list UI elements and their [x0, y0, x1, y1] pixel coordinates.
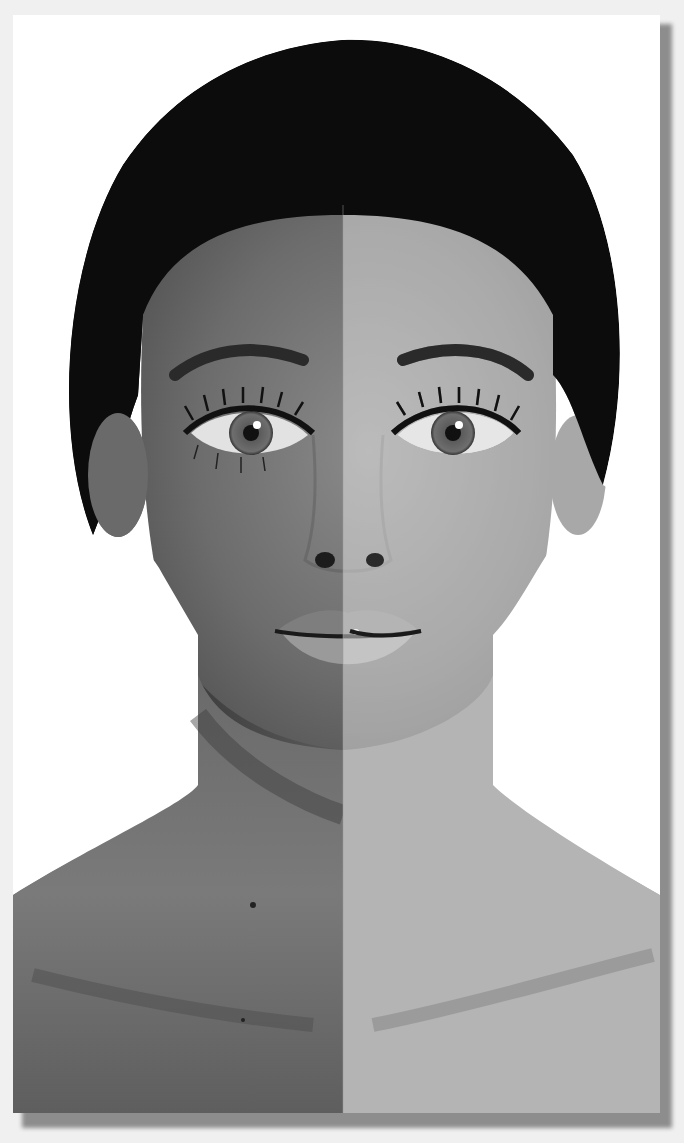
portrait-photo-print: [13, 15, 660, 1113]
portrait-image: [13, 15, 660, 1113]
photo-stage: [0, 0, 684, 1143]
